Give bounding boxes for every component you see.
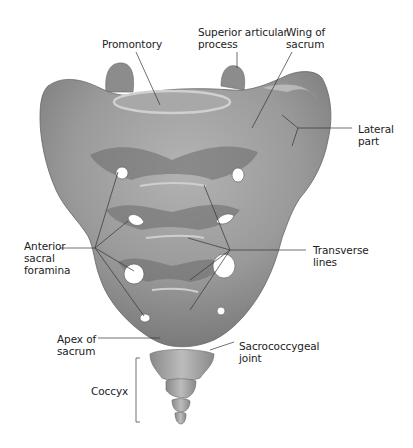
label-coccyx: Coccyx (91, 385, 128, 397)
promontory-surface (114, 91, 230, 113)
label-transverse-lines: Transverse lines (313, 244, 369, 268)
label-promontory: Promontory (102, 38, 162, 50)
coccyx-bones (150, 350, 214, 425)
sacrum-illustration (0, 0, 413, 448)
label-anterior-sacral-foramina: Anterior sacral foramina (24, 240, 70, 276)
label-apex-of-sacrum: Apex of sacrum (57, 333, 96, 357)
superior-articular-processes (106, 63, 245, 92)
label-lateral-part: Lateral part (358, 123, 394, 147)
label-wing-of-sacrum: Wing of sacrum (286, 26, 325, 50)
sacrum-diagram: Promontory Superior articular process Wi… (0, 0, 413, 448)
label-sacrococcygeal-joint: Sacrococcygeal joint (239, 340, 319, 364)
label-superior-articular-process: Superior articular process (198, 26, 288, 50)
